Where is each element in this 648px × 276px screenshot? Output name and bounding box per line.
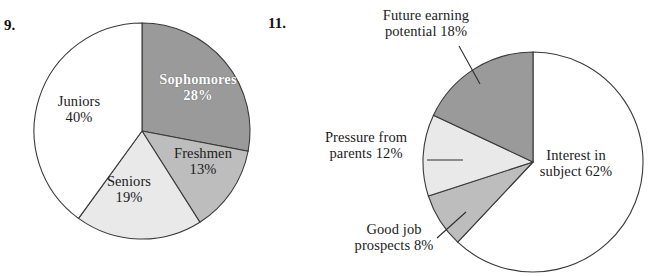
slice-label-interest-in-subject: Interest in subject 62%: [516, 148, 636, 179]
pie-charts-figure: 9. 11. Sophomores 28% Freshmen 13% Senio…: [0, 0, 648, 276]
slice-label-good-job-prospects: Good job prospects 8%: [332, 222, 456, 253]
slice-label-sophomores: Sophomores 28%: [148, 72, 248, 103]
slice-label-freshmen: Freshmen 13%: [162, 146, 244, 177]
slice-label-future-earning-potential: Future earning potential 18%: [361, 8, 491, 39]
slice-label-juniors: Juniors 40%: [43, 94, 115, 125]
slice-label-seniors: Seniors 19%: [93, 174, 165, 205]
slice-label-pressure-from-parents: Pressure from parents 12%: [303, 130, 429, 161]
